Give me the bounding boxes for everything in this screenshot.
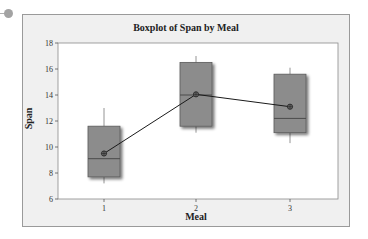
y-tick-label: 6 <box>49 195 53 204</box>
box-3 <box>274 74 306 133</box>
y-tick-label: 16 <box>45 65 53 74</box>
y-tick-label: 10 <box>45 143 53 152</box>
x-tick-label: 2 <box>194 204 198 213</box>
y-tick-label: 14 <box>45 91 53 100</box>
y-tick-label: 8 <box>49 169 53 178</box>
y-tick-label: 18 <box>45 39 53 48</box>
x-tick-label: 3 <box>288 204 292 213</box>
x-tick-label: 1 <box>102 204 106 213</box>
boxplot-chart: 681012141618123 <box>0 0 368 239</box>
y-tick-label: 12 <box>45 117 53 126</box>
